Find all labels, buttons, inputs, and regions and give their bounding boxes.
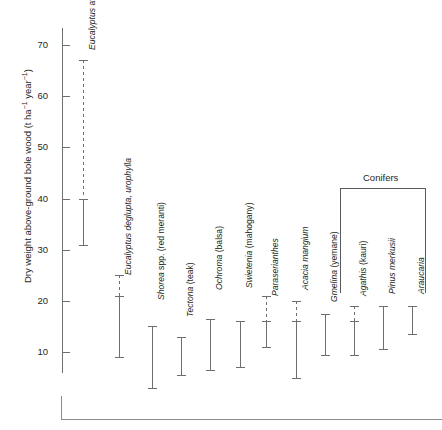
chart-plot-area: 10203040506070 Dry weight above-ground b… xyxy=(0,0,442,430)
y-axis-tick-label: 70 xyxy=(26,40,48,50)
y-axis-tick xyxy=(62,199,70,200)
y-axis-tick xyxy=(62,352,70,353)
range-cap-lower xyxy=(408,334,417,335)
caption-rule-vertical xyxy=(61,396,62,420)
range-cap-lower xyxy=(262,347,271,348)
range-cap-lower xyxy=(206,370,215,371)
range-cap-mid xyxy=(262,321,271,322)
range-solid-segment xyxy=(83,199,84,245)
range-cap-lower xyxy=(115,357,124,358)
range-solid-segment xyxy=(240,321,241,367)
range-cap-lower xyxy=(236,367,245,368)
range-cap-upper xyxy=(177,337,186,338)
range-cap-mid xyxy=(350,321,359,322)
range-cap-upper xyxy=(321,314,330,315)
range-dashed-segment xyxy=(266,296,267,322)
range-solid-segment xyxy=(296,321,297,377)
y-axis-tick xyxy=(62,147,70,148)
y-axis-tick xyxy=(62,45,70,46)
range-solid-segment xyxy=(383,306,384,349)
range-cap-upper xyxy=(79,60,88,61)
y-axis-line xyxy=(62,28,63,373)
figure-container: 10203040506070 Dry weight above-ground b… xyxy=(0,0,442,430)
range-dashed-segment xyxy=(296,301,297,321)
range-cap-upper xyxy=(379,306,388,307)
range-cap-mid xyxy=(79,199,88,200)
series-label: Gmelina (yemane) xyxy=(329,231,339,302)
range-cap-mid xyxy=(292,321,301,322)
series-label: Shorea spp. (red meranti) xyxy=(156,202,166,300)
series-label: Tectona (teak) xyxy=(185,262,195,317)
range-cap-lower xyxy=(148,388,157,389)
range-solid-segment xyxy=(119,296,120,357)
series-label: Eucalyptus deglupta, urophylla xyxy=(123,158,133,275)
series-label: Eucalyptus at Ara Cruz xyxy=(87,0,97,50)
series-label: Swietenia (mahogany) xyxy=(244,202,254,288)
range-cap-upper xyxy=(115,275,124,276)
range-cap-lower xyxy=(292,378,301,379)
range-solid-segment xyxy=(152,326,153,387)
range-cap-upper xyxy=(148,326,157,327)
range-cap-mid xyxy=(115,296,124,297)
group-label-conifers: Conifers xyxy=(363,172,398,183)
y-axis-tick xyxy=(62,301,70,302)
range-cap-upper xyxy=(292,301,301,302)
range-cap-upper xyxy=(408,306,417,307)
range-cap-upper xyxy=(236,321,245,322)
y-axis-label: Dry weight above-ground bole wood (t ha−… xyxy=(21,51,33,301)
y-axis-tick xyxy=(62,250,70,251)
series-label: Paraserianthes xyxy=(270,238,280,296)
range-solid-segment xyxy=(354,321,355,354)
range-solid-segment xyxy=(325,314,326,355)
range-dashed-segment xyxy=(119,275,120,295)
range-cap-lower xyxy=(321,355,330,356)
range-solid-segment xyxy=(266,321,267,347)
range-dashed-segment xyxy=(354,306,355,321)
group-bracket xyxy=(340,188,426,293)
range-dashed-segment xyxy=(83,60,84,198)
range-solid-segment xyxy=(210,319,211,370)
range-cap-lower xyxy=(350,355,359,356)
range-cap-upper xyxy=(206,319,215,320)
series-label: Ochroma (balsa) xyxy=(214,226,224,290)
range-solid-segment xyxy=(181,337,182,375)
series-label: Acacia mangium xyxy=(300,226,310,290)
y-axis-tick-label: 10 xyxy=(26,347,48,357)
range-cap-lower xyxy=(177,375,186,376)
caption-rule-horizontal xyxy=(61,419,442,420)
range-solid-segment xyxy=(412,306,413,334)
range-cap-lower xyxy=(79,245,88,246)
range-cap-lower xyxy=(379,349,388,350)
y-axis-tick xyxy=(62,96,70,97)
range-cap-upper xyxy=(350,306,359,307)
